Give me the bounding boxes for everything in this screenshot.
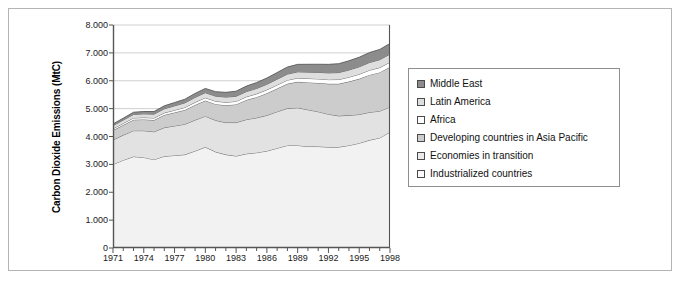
- legend-item[interactable]: Economies in transition: [417, 147, 619, 165]
- legend-item[interactable]: Middle East: [417, 75, 619, 93]
- x-axis-tick-label: 1971: [96, 254, 130, 263]
- legend-swatch-icon: [417, 98, 425, 106]
- x-axis-tick-label: 1992: [311, 254, 345, 263]
- x-axis-tick-label: 1995: [342, 254, 376, 263]
- x-axis-tick-label: 1977: [158, 254, 192, 263]
- plot-area: [113, 25, 390, 248]
- stacked-area-svg: [113, 25, 390, 254]
- legend-swatch-icon: [417, 152, 425, 160]
- legend-swatch-icon: [417, 80, 425, 88]
- y-axis-tick-label: 0: [74, 244, 108, 253]
- legend-swatch-icon: [417, 170, 425, 178]
- y-axis-tick-label: 8.000: [74, 21, 108, 30]
- y-axis-tick-label: 3.000: [74, 160, 108, 169]
- x-axis-tick-label: 1974: [127, 254, 161, 263]
- legend-item[interactable]: Africa: [417, 111, 619, 129]
- x-axis-tick-labels: 1971197419771980198319861989199219951998: [0, 254, 687, 268]
- legend-swatch-icon: [417, 116, 425, 124]
- legend-item-label: Africa: [430, 115, 456, 125]
- y-axis-title: Carbon Dioxide Emissions (MtC): [50, 47, 64, 227]
- legend-item[interactable]: Latin America: [417, 93, 619, 111]
- y-axis-tick-label: 1.000: [74, 216, 108, 225]
- x-axis-tick-label: 1998: [373, 254, 407, 263]
- legend: Middle EastLatin AmericaAfricaDeveloping…: [408, 68, 620, 187]
- legend-item[interactable]: Industrialized countries: [417, 165, 619, 183]
- y-axis-tick-label: 2.000: [74, 188, 108, 197]
- x-axis-tick-label: 1980: [188, 254, 222, 263]
- legend-item-label: Developing countries in Asia Pacific: [430, 133, 588, 143]
- legend-item-label: Industrialized countries: [430, 169, 532, 179]
- legend-swatch-icon: [417, 134, 425, 142]
- y-axis-tick-label: 5.000: [74, 105, 108, 114]
- y-axis-tick-label: 6.000: [74, 77, 108, 86]
- legend-item-label: Middle East: [430, 79, 482, 89]
- legend-item-label: Economies in transition: [430, 151, 533, 161]
- x-axis-tick-label: 1986: [250, 254, 284, 263]
- y-axis-tick-labels: 01.0002.0003.0004.0005.0006.0007.0008.00…: [68, 0, 108, 285]
- x-axis-tick-label: 1989: [281, 254, 315, 263]
- figure: Carbon Dioxide Emissions (MtC) 01.0002.0…: [0, 0, 687, 285]
- y-axis-tick-label: 4.000: [74, 133, 108, 142]
- legend-item[interactable]: Developing countries in Asia Pacific: [417, 129, 619, 147]
- x-axis-tick-label: 1983: [219, 254, 253, 263]
- y-axis-tick-label: 7.000: [74, 49, 108, 58]
- legend-item-label: Latin America: [430, 97, 491, 107]
